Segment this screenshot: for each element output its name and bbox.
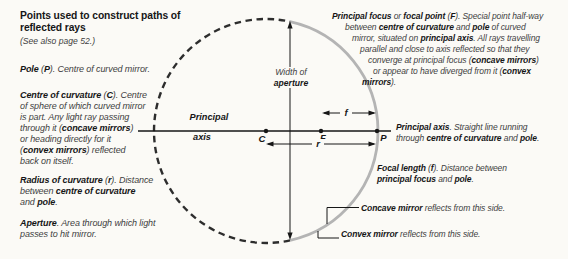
aperture-width-label-line2: aperture xyxy=(263,78,319,89)
aperture-width-label-line1: Width of xyxy=(263,67,319,78)
see-also-note: (See also page 52.) xyxy=(20,36,95,46)
arrowhead-right-icon xyxy=(369,110,377,115)
focal-length-definition: Focal length (f). Distance betweenprinci… xyxy=(377,163,507,185)
figure-curved-mirror-diagram: Points used to construct paths ofreflect… xyxy=(0,0,568,259)
principal-axis-label-line2: axis xyxy=(184,132,220,142)
pole-definition: Pole (P). Centre of curved mirror. xyxy=(20,64,150,75)
arrowhead-left-icon xyxy=(322,110,330,115)
principal-focus-definition: Principal focus or focal point (F). Spec… xyxy=(330,11,543,88)
figure-heading: Points used to construct paths ofreflect… xyxy=(20,10,200,34)
arrowhead-right-icon xyxy=(369,141,377,146)
convex-leader-line xyxy=(318,231,339,238)
point-label-c: C xyxy=(256,134,268,144)
principal-axis-label-line1: Principal xyxy=(184,112,234,122)
radius-of-curvature-definition: Radius of curvature (r). Distancebetween… xyxy=(20,175,153,208)
point-label-p: P xyxy=(377,133,390,143)
centre-of-curvature-definition: Centre of curvature (C). Centreof sphere… xyxy=(20,90,147,167)
aperture-width-label: Width of aperture xyxy=(263,67,319,88)
radius-symbol: r xyxy=(312,139,324,149)
focal-length-symbol: f xyxy=(340,108,352,118)
principal-axis-definition: Principal axis. Straight line runningthr… xyxy=(396,122,539,144)
concave-mirror-note: Concave mirror reflects from this side. xyxy=(361,203,505,214)
aperture-definition: Aperture. Area through which lightpasses… xyxy=(20,218,155,240)
convex-mirror-note: Convex mirror reflects from this side. xyxy=(341,229,480,240)
